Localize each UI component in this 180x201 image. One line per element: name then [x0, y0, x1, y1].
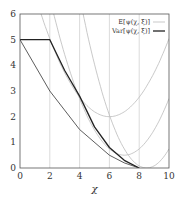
line-chart: 02468100123456χE[ψ(χ, ξ)]Var[ψ(χ, ξ)] [0, 0, 180, 201]
legend-label: E[ψ(χ, ξ)] [118, 18, 150, 26]
x-axis-label: χ [90, 183, 98, 194]
x-tick-label: 6 [107, 171, 113, 181]
x-tick-label: 0 [17, 171, 23, 181]
x-tick-label: 2 [47, 171, 53, 181]
x-tick-label: 10 [163, 171, 175, 181]
y-tick-label: 6 [10, 9, 16, 19]
x-tick-label: 4 [77, 171, 83, 181]
y-tick-label: 2 [10, 112, 16, 122]
y-tick-label: 1 [10, 137, 16, 147]
y-tick-label: 3 [10, 86, 16, 96]
y-tick-label: 5 [10, 35, 16, 45]
plot-frame [20, 14, 169, 168]
legend-label: Var[ψ(χ, ξ)] [111, 27, 150, 35]
y-tick-label: 0 [10, 163, 16, 173]
y-tick-label: 4 [10, 60, 16, 70]
x-tick-label: 8 [136, 171, 142, 181]
